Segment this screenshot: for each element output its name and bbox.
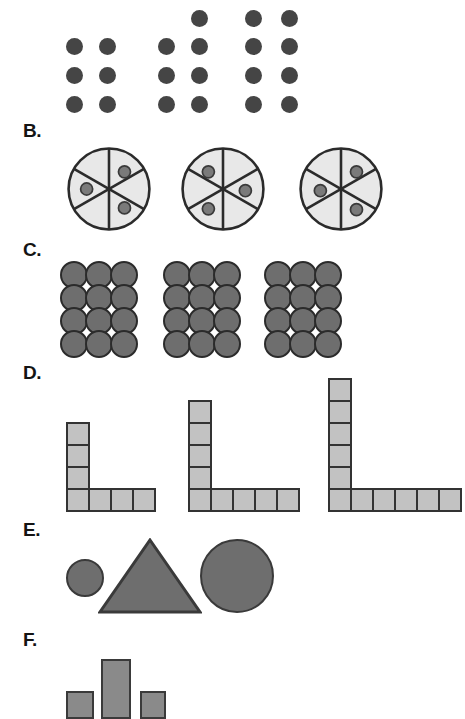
dot (281, 38, 298, 55)
panel-label-e: E. (23, 520, 40, 539)
sectored-circle-icon (298, 146, 384, 232)
dot (66, 96, 83, 113)
panel-a (0, 0, 465, 118)
packed-circle (163, 330, 191, 358)
l-cell (188, 422, 212, 446)
panel-d-l-shape-1 (66, 422, 182, 510)
l-cell (66, 488, 90, 512)
packed-circle (60, 330, 88, 358)
panel-b-pie-3 (298, 146, 384, 236)
dot (99, 96, 116, 113)
l-cell (328, 378, 352, 402)
l-cell (110, 488, 134, 512)
panel-a-group-1 (66, 38, 114, 110)
panel-a-group-2 (158, 10, 206, 110)
panel-f-bar-right (140, 691, 166, 719)
panel-label-d: D. (23, 363, 41, 382)
sectored-circle-icon (66, 146, 152, 232)
triangle-icon (98, 538, 202, 614)
l-cell (416, 488, 440, 512)
sectored-circle-icon (180, 146, 266, 232)
l-cell (254, 488, 278, 512)
l-cell (276, 488, 300, 512)
dot (66, 67, 83, 84)
panel-e-triangle (98, 538, 202, 618)
figure-sheet: B. (0, 0, 465, 719)
l-cell (328, 444, 352, 468)
panel-a-group-3 (245, 10, 297, 110)
dot (281, 67, 298, 84)
l-cell (188, 488, 212, 512)
dot (158, 96, 175, 113)
panel-e: E. (0, 512, 465, 622)
l-cell (328, 400, 352, 424)
panel-f-bar-left (66, 691, 94, 719)
panel-label-f: F. (23, 630, 37, 649)
panel-d-l-shape-2 (188, 400, 328, 510)
l-cell (350, 488, 374, 512)
packed-circle (85, 330, 113, 358)
l-cell (132, 488, 156, 512)
l-cell (232, 488, 256, 512)
packed-circle (264, 330, 292, 358)
l-cell (328, 488, 352, 512)
dot (191, 96, 208, 113)
panel-f-bar-center (101, 659, 131, 719)
panel-c-block-3 (264, 261, 342, 357)
dot (245, 96, 262, 113)
packed-circle (110, 330, 138, 358)
panel-d-l-shape-3 (328, 378, 465, 510)
panel-label-c: C. (23, 240, 41, 259)
l-cell (328, 466, 352, 490)
panel-c-block-1 (60, 261, 138, 357)
dot (99, 67, 116, 84)
packed-circle (188, 330, 216, 358)
l-cell (66, 466, 90, 490)
l-cell (188, 400, 212, 424)
panel-b-pie-2 (180, 146, 266, 236)
dot (245, 10, 262, 27)
dot (191, 10, 208, 27)
dot (191, 38, 208, 55)
packed-circle (314, 330, 342, 358)
panel-label-b: B. (23, 121, 41, 140)
dot (281, 96, 298, 113)
l-cell (66, 444, 90, 468)
panel-f: F. (0, 622, 465, 719)
dot (245, 67, 262, 84)
panel-d: D. (0, 360, 465, 512)
l-cell (210, 488, 234, 512)
packed-circle (289, 330, 317, 358)
panel-c: C. (0, 238, 465, 360)
dot (191, 67, 208, 84)
dot (245, 38, 262, 55)
l-cell (66, 422, 90, 446)
panel-b-pie-1 (66, 146, 152, 236)
l-cell (188, 466, 212, 490)
l-cell (88, 488, 112, 512)
l-cell (394, 488, 418, 512)
l-cell (328, 422, 352, 446)
dot (281, 10, 298, 27)
l-cell (372, 488, 396, 512)
l-cell (438, 488, 462, 512)
dot (66, 38, 83, 55)
packed-circle (213, 330, 241, 358)
dot (158, 67, 175, 84)
panel-c-block-2 (163, 261, 241, 357)
panel-e-large-circle (200, 539, 274, 613)
dot (99, 38, 116, 55)
panel-b: B. (0, 118, 465, 238)
dot (158, 38, 175, 55)
l-cell (188, 444, 212, 468)
